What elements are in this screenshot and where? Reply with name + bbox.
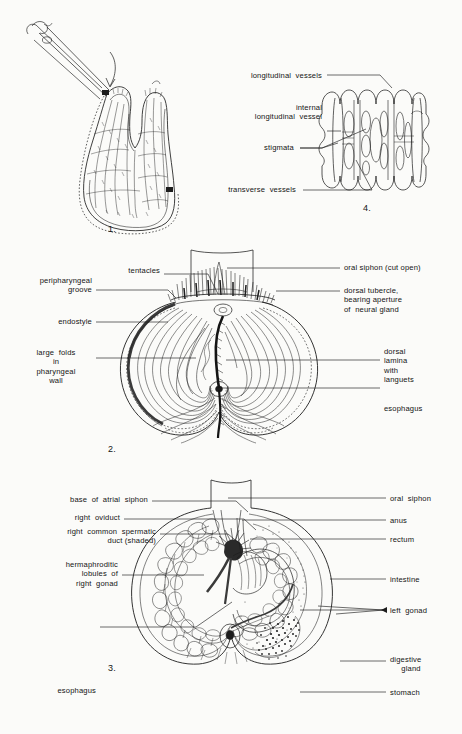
- figure-3-label-base-of-atrial-siphon: base of atrial siphon: [24, 495, 148, 504]
- figure-4-label-longitudinal-vessels: longitudinal vessels: [196, 71, 322, 80]
- figure-2-label-endostyle: endostyle: [20, 317, 92, 326]
- diagram-plate: 1.: [0, 0, 462, 734]
- figure-4-label-stigmata: stigmata: [196, 143, 294, 152]
- figure-3-label-right-oviduct: right oviduct: [24, 513, 120, 522]
- figure-4-label-internal-longitudinal-vessel: internal longitudinal vessel: [186, 103, 322, 122]
- figure-2-label-tentacles: tentacles: [74, 266, 160, 275]
- figure-2-label-dorsal-lamina: dorsal lamina with languets: [384, 347, 456, 385]
- figure-3-label-anus: anus: [390, 516, 460, 525]
- figure-2-label-large-folds: large folds in pharyngeal wall: [20, 348, 92, 386]
- figure-2-label-dorsal-tubercle: dorsal tubercle, bearing aperture of neu…: [344, 286, 460, 314]
- figure-3-label-esophagus-fig3: esophagus: [24, 686, 96, 695]
- figure-2-label-esophagus: esophagus: [384, 404, 456, 413]
- figure-3-label-rectum: rectum: [390, 535, 460, 544]
- figure-3-label-left-gonad: left gonad: [390, 606, 460, 615]
- figure-3-label-stomach: stomach: [390, 688, 460, 697]
- figure-3-label-intestine: intestine: [390, 575, 460, 584]
- figure-3-label-hermaphroditic-lobules: hermaphroditic lobules of right gonad: [14, 560, 118, 588]
- figure-4-label-transverse-vessels: transverse vessels: [186, 185, 296, 194]
- figure-2-label-oral-siphon-cut-open: oral siphon (cut open): [344, 263, 460, 272]
- figure-2-label-peripharyngeal-groove: peripharyngeal groove: [10, 276, 92, 295]
- figure-3-label-oral-siphon: oral siphon: [390, 494, 460, 503]
- figure-3-label-digestive-gland: digestive gland: [390, 655, 460, 674]
- figure-3-label-right-common-spermatic-duct: right common spermatic duct (shaded): [14, 527, 156, 546]
